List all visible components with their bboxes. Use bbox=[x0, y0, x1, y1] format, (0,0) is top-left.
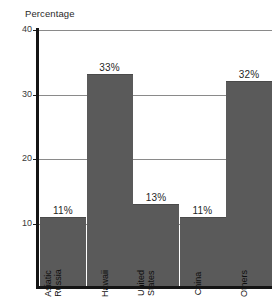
bar-hawaii[interactable] bbox=[87, 74, 133, 287]
bar-category-label: UnitedStates bbox=[137, 270, 156, 296]
bar-value-label: 32% bbox=[239, 69, 260, 80]
bar-category-label: Others bbox=[240, 269, 250, 296]
bar-group[interactable]: 33%Hawaii bbox=[87, 75, 133, 287]
bar-others[interactable] bbox=[226, 81, 272, 287]
bar-category-label: AsiaticRussia bbox=[44, 269, 63, 297]
bar-group[interactable]: 32%Others bbox=[226, 82, 272, 287]
bar-value-label: 11% bbox=[53, 205, 73, 216]
bar-value-label: 13% bbox=[146, 192, 167, 203]
bar-group[interactable]: 11%China bbox=[180, 218, 226, 287]
bar-group[interactable]: 13%UnitedStates bbox=[133, 205, 179, 287]
bars-layer: 11%AsiaticRussia33%Hawaii13%UnitedStates… bbox=[0, 0, 280, 302]
y-axis-line bbox=[36, 28, 39, 289]
bar-chart: Percentage 40302010 11%AsiaticRussia33%H… bbox=[0, 0, 280, 302]
bar-group[interactable]: 11%AsiaticRussia bbox=[40, 218, 86, 287]
bar-category-label: Hawaii bbox=[100, 269, 110, 296]
bar-value-label: 11% bbox=[193, 205, 213, 216]
bar-value-label: 33% bbox=[99, 62, 120, 73]
bar-category-label: China bbox=[193, 271, 203, 295]
x-axis-line bbox=[36, 286, 272, 289]
